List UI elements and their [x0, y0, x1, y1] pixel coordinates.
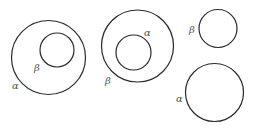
- circle-diagram: α β β α β α: [0, 0, 255, 131]
- label-beta: β: [188, 24, 195, 35]
- circle-alpha: [116, 35, 151, 70]
- panel-separate: β α: [176, 10, 244, 122]
- circle-alpha: [12, 21, 86, 95]
- panel-beta-inside-alpha: α β: [12, 21, 86, 95]
- circle-beta: [199, 10, 237, 48]
- circle-beta: [102, 10, 174, 82]
- label-alpha: α: [12, 80, 19, 91]
- circle-alpha: [186, 64, 244, 122]
- label-alpha: α: [176, 93, 183, 104]
- circle-beta: [40, 33, 74, 67]
- panel-alpha-inside-beta: β α: [102, 10, 174, 86]
- label-alpha: α: [144, 27, 151, 38]
- label-beta: β: [104, 75, 111, 86]
- label-beta: β: [33, 62, 40, 73]
